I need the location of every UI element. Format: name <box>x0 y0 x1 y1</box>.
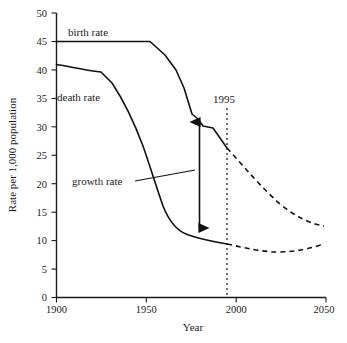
y-axis-ticks <box>52 13 57 298</box>
x-tick-label-1950: 1950 <box>136 304 157 315</box>
y-tick-label-0: 0 <box>42 292 47 303</box>
x-axis-tick-labels: 1900 1950 2000 2050 <box>46 304 335 315</box>
birth-rate-label: birth rate <box>68 26 108 38</box>
x-tick-label-2050: 2050 <box>314 304 335 315</box>
x-axis-ticks <box>57 298 327 303</box>
death-rate-label: death rate <box>57 91 100 103</box>
y-tick-label-10: 10 <box>37 235 48 246</box>
y-tick-label-35: 35 <box>37 93 48 104</box>
y-tick-label-25: 25 <box>37 150 48 161</box>
axes-group <box>57 13 327 298</box>
y-axis-title: Rate per 1,000 population <box>6 97 18 212</box>
y-tick-label-50: 50 <box>37 8 48 19</box>
x-axis-title: Year <box>183 321 204 333</box>
death-rate-curve-projected <box>227 244 324 252</box>
axis-lines <box>57 13 327 298</box>
y-tick-label-15: 15 <box>37 207 48 218</box>
growth-rate-leader-line <box>135 170 195 181</box>
y-tick-label-30: 30 <box>37 122 48 133</box>
y-tick-label-40: 40 <box>37 65 48 76</box>
x-tick-label-1900: 1900 <box>46 304 67 315</box>
y-tick-label-5: 5 <box>42 264 47 275</box>
x-tick-label-2000: 2000 <box>226 304 247 315</box>
y-tick-label-20: 20 <box>37 179 48 190</box>
chart-canvas: 50 45 40 35 30 25 20 15 10 5 0 1900 1950… <box>0 0 347 343</box>
demographic-transition-chart: 50 45 40 35 30 25 20 15 10 5 0 1900 1950… <box>0 0 347 343</box>
y-tick-label-45: 45 <box>37 36 48 47</box>
y-axis-tick-labels: 50 45 40 35 30 25 20 15 10 5 0 <box>37 8 48 304</box>
year-marker-label-1995: 1995 <box>213 93 236 105</box>
birth-rate-curve-projected <box>227 148 324 226</box>
growth-rate-label: growth rate <box>72 175 123 187</box>
